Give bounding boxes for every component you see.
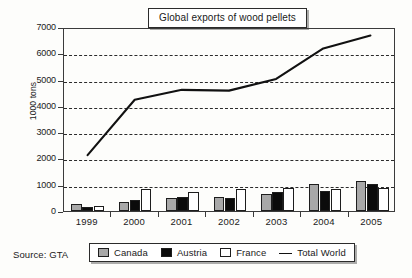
y-tick-mark-0 <box>58 212 63 213</box>
legend-item-france[interactable]: France <box>220 247 266 258</box>
bar-austria-1999 <box>82 207 93 211</box>
bar-canada-2005 <box>356 181 367 211</box>
legend-item-total-world[interactable]: Total World <box>279 247 345 258</box>
bar-france-2001 <box>188 192 199 211</box>
x-group-separator <box>253 212 254 217</box>
chart-legend: CanadaAustriaFranceTotal World <box>89 243 355 262</box>
y-axis-spine <box>63 28 64 212</box>
bar-france-2005 <box>378 188 389 211</box>
source-label: Source: GTA <box>13 249 68 260</box>
x-tick-label-2004: 2004 <box>301 216 347 227</box>
x-group-separator <box>110 212 111 217</box>
y-tick-label-7000: 7000 <box>24 23 56 32</box>
bar-austria-2001 <box>177 197 188 211</box>
legend-item-austria[interactable]: Austria <box>161 247 207 258</box>
y-tick-mark-1000 <box>58 186 63 187</box>
gridline-4000 <box>64 108 394 109</box>
bar-canada-2001 <box>166 198 177 211</box>
y-axis-label: 1000 tons <box>28 66 38 136</box>
legend-item-canada[interactable]: Canada <box>98 247 148 258</box>
chart-title: Global exports of wood pellets <box>148 8 307 28</box>
gridline-2000 <box>64 160 394 161</box>
bar-austria-2003 <box>272 192 283 211</box>
y-tick-label-6000: 6000 <box>24 49 56 58</box>
legend-label: Austria <box>177 247 207 258</box>
bar-canada-2002 <box>214 197 225 211</box>
total-world-line-series <box>64 29 394 211</box>
bar-canada-2004 <box>309 184 320 211</box>
y-tick-label-1000: 1000 <box>24 181 56 190</box>
bar-austria-2000 <box>130 200 141 211</box>
bar-france-2002 <box>236 189 247 211</box>
bar-france-2004 <box>331 189 342 211</box>
x-tick-label-2005: 2005 <box>348 216 394 227</box>
bar-austria-2002 <box>225 198 236 211</box>
x-tick-label-2003: 2003 <box>253 216 299 227</box>
gridline-6000 <box>64 55 394 56</box>
x-group-separator <box>348 212 349 217</box>
bar-canada-1999 <box>71 204 82 211</box>
gridline-3000 <box>64 134 394 135</box>
bar-france-2003 <box>283 188 294 211</box>
y-tick-mark-7000 <box>58 28 63 29</box>
legend-label: Total World <box>297 247 345 258</box>
y-tick-mark-5000 <box>58 81 63 82</box>
square-white-swatch-icon <box>220 248 231 257</box>
bar-austria-2004 <box>320 191 331 212</box>
legend-label: Canada <box>114 247 148 258</box>
plot-area <box>63 28 395 212</box>
bar-canada-2003 <box>261 194 272 211</box>
chart-figure: 01000200030004000500060007000 1000 tons … <box>0 0 412 278</box>
bar-canada-2000 <box>119 202 130 211</box>
y-tick-mark-4000 <box>58 107 63 108</box>
line-swatch-icon <box>279 253 292 254</box>
x-group-separator <box>300 212 301 217</box>
square-gray-swatch-icon <box>98 248 109 257</box>
x-tick-label-2000: 2000 <box>111 216 157 227</box>
y-tick-label-0: 0 <box>24 207 56 216</box>
x-tick-label-1999: 1999 <box>64 216 110 227</box>
bar-austria-2005 <box>367 184 378 211</box>
x-group-separator <box>158 212 159 217</box>
y-tick-mark-2000 <box>58 159 63 160</box>
x-tick-label-2002: 2002 <box>206 216 252 227</box>
gridline-5000 <box>64 82 394 83</box>
gridline-1000 <box>64 187 394 188</box>
x-group-separator <box>205 212 206 217</box>
y-tick-label-2000: 2000 <box>24 154 56 163</box>
x-tick-label-2001: 2001 <box>159 216 205 227</box>
square-black-swatch-icon <box>161 248 172 257</box>
bar-france-2000 <box>141 189 152 211</box>
bar-france-1999 <box>94 206 105 211</box>
y-tick-mark-3000 <box>58 133 63 134</box>
legend-label: France <box>236 247 266 258</box>
y-tick-mark-6000 <box>58 54 63 55</box>
